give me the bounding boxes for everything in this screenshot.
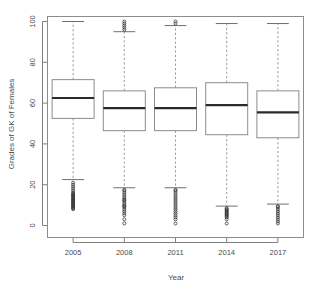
y-tick-label-20: 20 [28, 181, 37, 189]
x-tick-label-2014: 2014 [218, 248, 235, 257]
outlier-2008-22 [123, 20, 126, 23]
x-tick-label-2011: 2011 [167, 248, 183, 257]
box-rect-2017 [257, 91, 299, 138]
boxplot-figure: 020406080100 20052008201120142017 Grades… [0, 0, 313, 292]
y-tick-label-40: 40 [28, 140, 37, 148]
y-axis: 020406080100 [28, 15, 48, 227]
y-tick-label-0: 0 [28, 223, 37, 227]
box-2011 [155, 20, 197, 225]
x-axis-title: Year [168, 273, 185, 282]
x-tick-label-2005: 2005 [65, 248, 82, 257]
outlier-2014-11 [225, 222, 228, 225]
x-tick-label-2017: 2017 [270, 248, 287, 257]
box-2005 [52, 22, 94, 211]
box-rect-2008 [103, 91, 145, 131]
y-tick-label-80: 80 [28, 58, 37, 66]
box-2017 [257, 24, 299, 225]
outlier-2014-10 [225, 218, 228, 221]
box-2014 [206, 24, 248, 225]
outlier-2008-15 [123, 214, 126, 217]
x-tick-label-2008: 2008 [116, 248, 133, 257]
outlier-2008-16 [123, 218, 126, 221]
outlier-2011-15 [174, 218, 177, 221]
boxplot-canvas: 020406080100 20052008201120142017 Grades… [0, 0, 313, 292]
x-axis: 20052008201120142017 [65, 238, 286, 258]
outlier-2011-16 [174, 222, 177, 225]
y-tick-label-100: 100 [28, 15, 37, 28]
box-rect-2014 [206, 83, 248, 135]
outlier-2008-17 [123, 222, 126, 225]
box-2008 [103, 20, 145, 225]
outlier-2011-18 [174, 20, 177, 23]
outlier-2017-9 [276, 222, 279, 225]
y-axis-title: Grades of GK of Females [7, 79, 16, 170]
y-tick-label-60: 60 [28, 99, 37, 107]
box-series [52, 20, 299, 225]
